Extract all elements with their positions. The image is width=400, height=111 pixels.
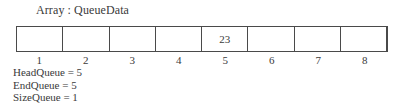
array-cell-7 [294,27,340,51]
array-cell-5: 23 [201,27,247,51]
index-label-7: 7 [295,54,342,66]
array-cell-6 [247,27,293,51]
array-cell-1 [17,27,62,51]
queue-variables: HeadQueue = 5 EndQueue = 5 SizeQueue = 1 [13,66,82,104]
head-queue-value: HeadQueue = 5 [13,66,82,79]
array-indices: 1 2 3 4 5 6 7 8 [16,54,388,66]
array-cell-2 [62,27,108,51]
index-label-8: 8 [342,54,389,66]
array-cell-4 [155,27,201,51]
index-label-2: 2 [63,54,110,66]
index-label-5: 5 [202,54,249,66]
index-label-3: 3 [109,54,156,66]
index-label-4: 4 [156,54,203,66]
size-queue-value: SizeQueue = 1 [13,91,82,104]
array-cell-3 [109,27,155,51]
index-label-6: 6 [249,54,296,66]
array-cell-8 [340,27,387,51]
end-queue-value: EndQueue = 5 [13,79,82,92]
index-label-1: 1 [16,54,63,66]
queue-array: 23 [16,26,388,52]
array-title: Array : QueueData [36,3,129,18]
